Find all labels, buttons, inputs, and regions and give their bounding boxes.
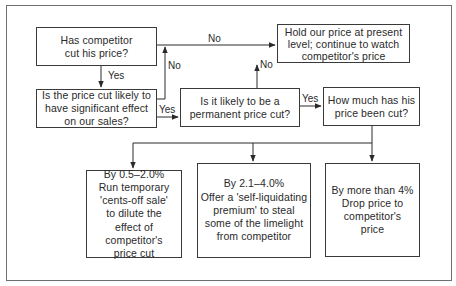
option-title: By 0.5–2.0% <box>104 168 165 181</box>
option-body: Offer a 'self-liquidating premium' to st… <box>200 191 308 244</box>
node-permanent-price-cut: Is it likely to be a permanent price cut… <box>180 88 300 127</box>
option-body: Drop price to competitor's price <box>332 197 414 237</box>
edge-label-q1-no: No <box>208 33 221 44</box>
edge-label-q2-no: No <box>168 60 181 71</box>
node-text: Is the price cut likely to have signific… <box>41 89 153 128</box>
node-how-much-cut: How much has his price been cut? <box>323 87 420 126</box>
node-text: How much has his price been cut? <box>327 94 416 120</box>
edge-label-q1-yes: Yes <box>108 70 124 81</box>
node-text: Hold our price at present level; continu… <box>281 26 406 62</box>
node-option-small-cut: By 0.5–2.0% Run temporary 'cents-off sal… <box>86 170 182 258</box>
node-significant-effect: Is the price cut likely to have signific… <box>36 89 157 128</box>
edge-label-q3-no: No <box>260 59 273 70</box>
option-title: By 2.1–4.0% <box>224 177 285 190</box>
option-title: By more than 4% <box>331 184 413 197</box>
node-hold-price: Hold our price at present level; continu… <box>277 24 410 63</box>
node-option-large-cut: By more than 4% Drop price to competitor… <box>325 163 420 257</box>
option-body: Run temporary 'cents-off sale' to dilute… <box>95 181 173 260</box>
edge-label-q2-yes: Yes <box>159 104 175 115</box>
edge-label-q3-yes: Yes <box>302 93 318 104</box>
node-text: Has competitor cut his price? <box>57 34 137 60</box>
node-has-competitor-cut-price: Has competitor cut his price? <box>36 27 157 66</box>
node-text: Is it likely to be a permanent price cut… <box>185 95 295 121</box>
node-option-medium-cut: By 2.1–4.0% Offer a 'self-liquidating pr… <box>197 163 311 258</box>
